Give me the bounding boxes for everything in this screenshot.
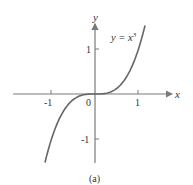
x-tick-label-1: 1	[135, 97, 140, 108]
y-tick-label-minus-1: -1	[81, 134, 89, 145]
curve-equation-label: y = x3	[110, 31, 137, 43]
figure-caption: (a)	[89, 173, 100, 185]
x-axis-label: x	[174, 88, 180, 100]
origin-label: 0	[86, 97, 91, 108]
y-tick-label-1: 1	[86, 44, 91, 55]
cubic-function-chart: y x -1 1 0 1 -1 y = x3 (a)	[0, 0, 193, 185]
x-tick-label-minus-1: -1	[44, 97, 52, 108]
y-axis-label: y	[92, 11, 98, 23]
